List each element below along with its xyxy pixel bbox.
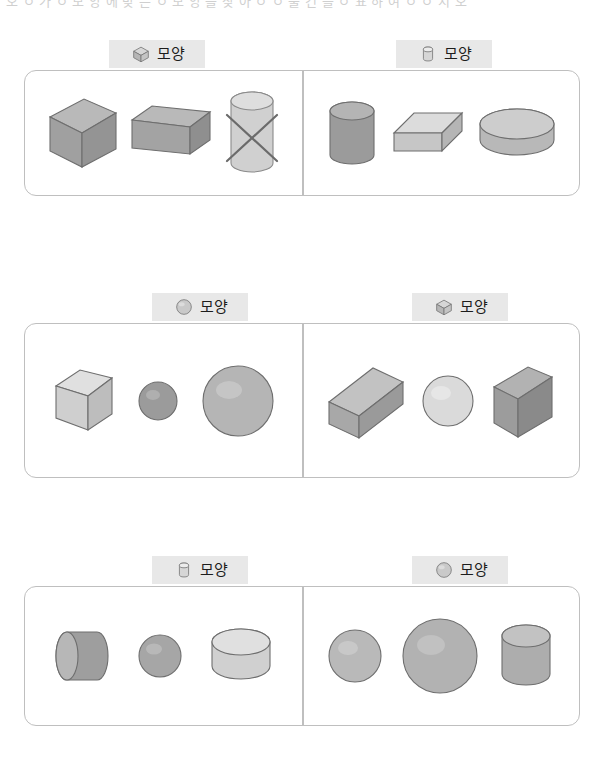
- row-3-right-item-2[interactable]: [401, 617, 479, 695]
- row-1-right-item-2[interactable]: [390, 107, 466, 159]
- cylinder-lying-shape: [53, 629, 113, 683]
- row-3-left-half: [25, 587, 302, 725]
- row-3-left-tag-label: 모양: [200, 563, 228, 578]
- rectangular-prism-tall-shape: [490, 361, 556, 441]
- cube-shape: [44, 93, 122, 173]
- row-2-right-item-2[interactable]: [420, 373, 476, 429]
- cylinder-upright-shape: [498, 622, 554, 690]
- row-3-right-half: [302, 587, 579, 725]
- row-3: 모양 모양: [0, 556, 604, 726]
- row-2-label-band: 모양 모양: [0, 293, 604, 323]
- row-1-right-half: [302, 71, 579, 195]
- row-1-label-band: 모양 모양: [0, 40, 604, 70]
- row-2-right-item-3[interactable]: [490, 361, 556, 441]
- rectangular-prism-flat-shape: [390, 107, 466, 159]
- row-3-panel: [24, 586, 580, 726]
- row-2: 모양 모양: [0, 293, 604, 478]
- cube-icon: [130, 43, 152, 65]
- sphere-small-shape: [327, 628, 383, 684]
- cylinder-wide-short-shape: [208, 625, 274, 687]
- row-2-left-tag-label: 모양: [200, 300, 228, 315]
- row-1-right-tag: 모양: [396, 40, 492, 68]
- row-2-left-item-3[interactable]: [200, 363, 276, 439]
- row-3-right-tag: 모양: [412, 556, 508, 584]
- row-1-left-item-2[interactable]: [128, 102, 214, 164]
- row-3-right-item-1[interactable]: [327, 628, 383, 684]
- cylinder-wide-disc-shape: [476, 104, 558, 162]
- row-3-left-tag: 모양: [152, 556, 248, 584]
- row-3-left-item-2[interactable]: [137, 633, 183, 679]
- rectangular-prism-long-shape: [325, 360, 407, 442]
- sphere-icon: [173, 296, 195, 318]
- row-3-right-item-3[interactable]: [498, 622, 554, 690]
- row-2-panel: [24, 323, 580, 478]
- row-1: 모양 모양: [0, 40, 604, 196]
- sphere-small-shape: [137, 633, 183, 679]
- faint-header-text-line: 오 ㅇ 가 ㅇ 모 양 에 맞 는 ㅇ 모 양 을 찾 아 ㅇ ㅇ 물 건 을 …: [0, 0, 604, 10]
- rectangular-prism-flat-shape: [128, 102, 214, 164]
- cylinder-icon: [417, 43, 439, 65]
- row-1-left-item-1[interactable]: [44, 93, 122, 173]
- row-2-right-tag: 모양: [412, 293, 508, 321]
- cylinder-upright-shape-marked: [221, 87, 283, 179]
- sphere-icon: [433, 559, 455, 581]
- row-3-label-band: 모양 모양: [0, 556, 604, 586]
- row-2-left-half: [25, 324, 302, 477]
- row-1-left-tag: 모양: [109, 40, 205, 68]
- row-1-right-tag-label: 모양: [444, 47, 472, 62]
- faint-header-text: 오 ㅇ 가 ㅇ 모 양 에 맞 는 ㅇ 모 양 을 찾 아 ㅇ ㅇ 물 건 을 …: [0, 0, 604, 12]
- row-3-right-tag-label: 모양: [460, 563, 488, 578]
- cylinder-icon: [173, 559, 195, 581]
- row-1-left-half: [25, 71, 302, 195]
- row-2-right-tag-label: 모양: [460, 300, 488, 315]
- row-1-right-item-1[interactable]: [323, 97, 381, 169]
- row-2-right-half: [302, 324, 579, 477]
- row-2-right-item-1[interactable]: [325, 360, 407, 442]
- sphere-small-shape: [137, 380, 179, 422]
- sphere-large-shape: [200, 363, 276, 439]
- row-2-left-item-2[interactable]: [137, 380, 179, 422]
- row-3-left-item-3[interactable]: [208, 625, 274, 687]
- row-1-left-tag-label: 모양: [157, 47, 185, 62]
- cube-icon: [433, 296, 455, 318]
- row-1-panel: [24, 70, 580, 196]
- cylinder-upright-shape: [323, 97, 381, 169]
- row-2-left-tag: 모양: [152, 293, 248, 321]
- cube-shape: [52, 366, 116, 436]
- row-1-left-item-3[interactable]: [221, 87, 283, 179]
- sphere-medium-shape: [420, 373, 476, 429]
- row-2-left-item-1[interactable]: [52, 366, 116, 436]
- sphere-large-shape: [401, 617, 479, 695]
- row-3-left-item-1[interactable]: [53, 629, 113, 683]
- row-1-right-item-3[interactable]: [476, 104, 558, 162]
